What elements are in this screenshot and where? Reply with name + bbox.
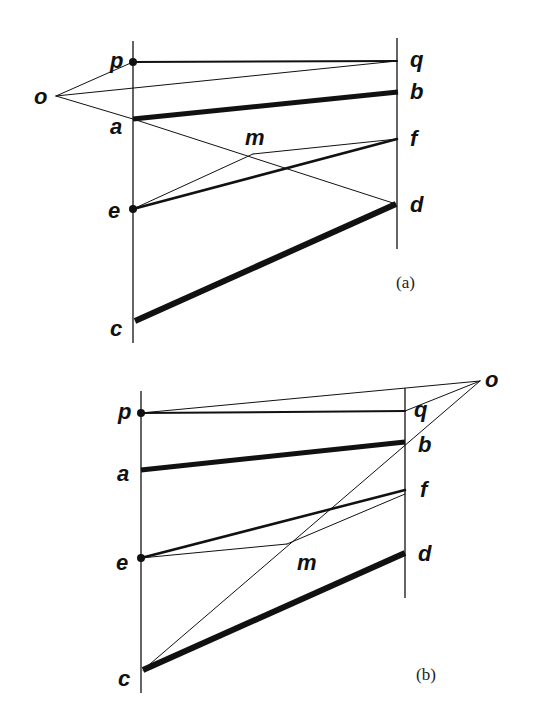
line-e-f [133, 139, 397, 209]
point-label-b: b [410, 79, 423, 104]
line-o-q [56, 61, 397, 96]
point-label-c: c [118, 666, 130, 691]
line-a-b [141, 442, 405, 470]
point-label-p: p [117, 399, 131, 424]
point-label-p: p [109, 48, 123, 73]
line-c-o [143, 381, 480, 670]
panel-b-diagram: pqobafemdc(b) [116, 367, 498, 693]
panel-a-diagram: pqobamfedc(a) [34, 38, 424, 343]
line-e-f [141, 490, 405, 558]
line-e-m [141, 544, 287, 558]
line-m-f [287, 494, 405, 544]
point-label-q: q [414, 397, 428, 422]
line-c-d [135, 204, 396, 321]
point-label-o: o [34, 84, 47, 109]
point-label-f: f [410, 126, 420, 151]
point-p-dot [129, 58, 137, 66]
point-label-m: m [297, 550, 317, 575]
line-m-f [253, 139, 397, 154]
point-label-e: e [116, 550, 128, 575]
point-label-a: a [110, 114, 122, 139]
point-e-dot [129, 205, 137, 213]
point-label-o: o [485, 367, 498, 392]
point-e-dot [137, 554, 145, 562]
point-label-d: d [418, 541, 432, 566]
line-c-d [143, 553, 405, 670]
point-label-b: b [418, 432, 431, 457]
point-label-m: m [245, 125, 265, 150]
point-label-e: e [108, 198, 120, 223]
point-label-c: c [110, 316, 122, 341]
figure-canvas: pqobamfedc(a) pqobafemdc(b) [0, 0, 534, 727]
point-label-d: d [410, 192, 424, 217]
point-label-a: a [117, 461, 129, 486]
geometry-figure: pqobamfedc(a) pqobafemdc(b) [0, 0, 534, 727]
line-p-q [141, 411, 405, 413]
panel-caption: (a) [396, 273, 415, 292]
line-a-b [133, 92, 398, 119]
point-label-f: f [420, 477, 430, 502]
panel-caption: (b) [416, 665, 436, 684]
point-label-q: q [410, 47, 424, 72]
line-p-q [133, 61, 397, 62]
point-p-dot [137, 409, 145, 417]
line-p-o [141, 381, 480, 413]
